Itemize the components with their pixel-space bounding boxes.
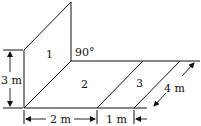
angle-label: 90° [75, 46, 95, 59]
geometry [3, 2, 200, 124]
surfaces-diagram: 1 2 3 90° 3 m 2 m 1 m 4 m [0, 0, 201, 126]
diagram-canvas: 1 2 3 90° 3 m 2 m 1 m 4 m [0, 0, 201, 126]
width1-dimension-label: 1 m [106, 113, 127, 126]
panel-3-label: 3 [136, 77, 143, 90]
width2-dimension-label: 2 m [50, 113, 71, 126]
panel-1-label: 1 [46, 48, 53, 61]
wall-floor-edge [24, 61, 71, 108]
panel-2-label: 2 [81, 78, 88, 91]
depth-dimension-label: 4 m [164, 82, 185, 95]
height-dimension-label: 3 m [1, 74, 22, 87]
depth-arrow-up [182, 63, 194, 76]
